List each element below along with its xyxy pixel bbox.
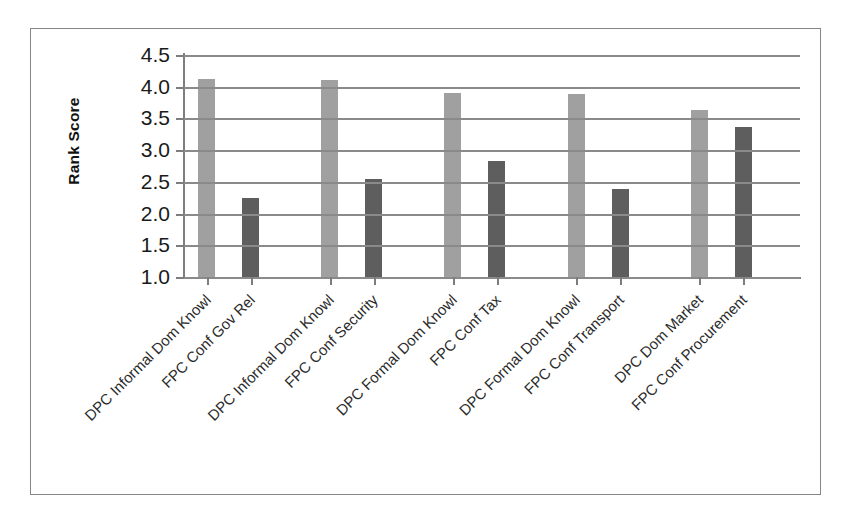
x-axis-category-labels: DPC Informal Dom KnowlFPC Conf Gov RelDP… <box>0 0 849 521</box>
chart-figure: Rank Score 1.01.52.02.53.03.54.04.5 DPC … <box>0 0 849 521</box>
x-axis-tick-mark <box>743 277 745 285</box>
x-axis-tick-mark <box>620 277 622 285</box>
y-axis-tick-mark <box>176 277 184 279</box>
x-axis-tick-mark <box>374 277 376 285</box>
x-axis-tick-mark <box>251 277 253 285</box>
x-axis-tick-mark <box>330 277 332 285</box>
y-axis-tick-mark <box>176 150 184 152</box>
x-axis-tick-mark <box>497 277 499 285</box>
y-axis-tick-mark <box>176 87 184 89</box>
x-axis-tick-mark <box>207 277 209 285</box>
y-axis-tick-mark <box>176 182 184 184</box>
y-axis-tick-mark <box>176 214 184 216</box>
y-axis-tick-mark <box>176 55 184 57</box>
x-axis-tick-mark <box>699 277 701 285</box>
x-axis-tick-mark <box>576 277 578 285</box>
y-axis-tick-mark <box>176 118 184 120</box>
y-axis-tick-mark <box>176 245 184 247</box>
x-axis-tick-mark <box>453 277 455 285</box>
